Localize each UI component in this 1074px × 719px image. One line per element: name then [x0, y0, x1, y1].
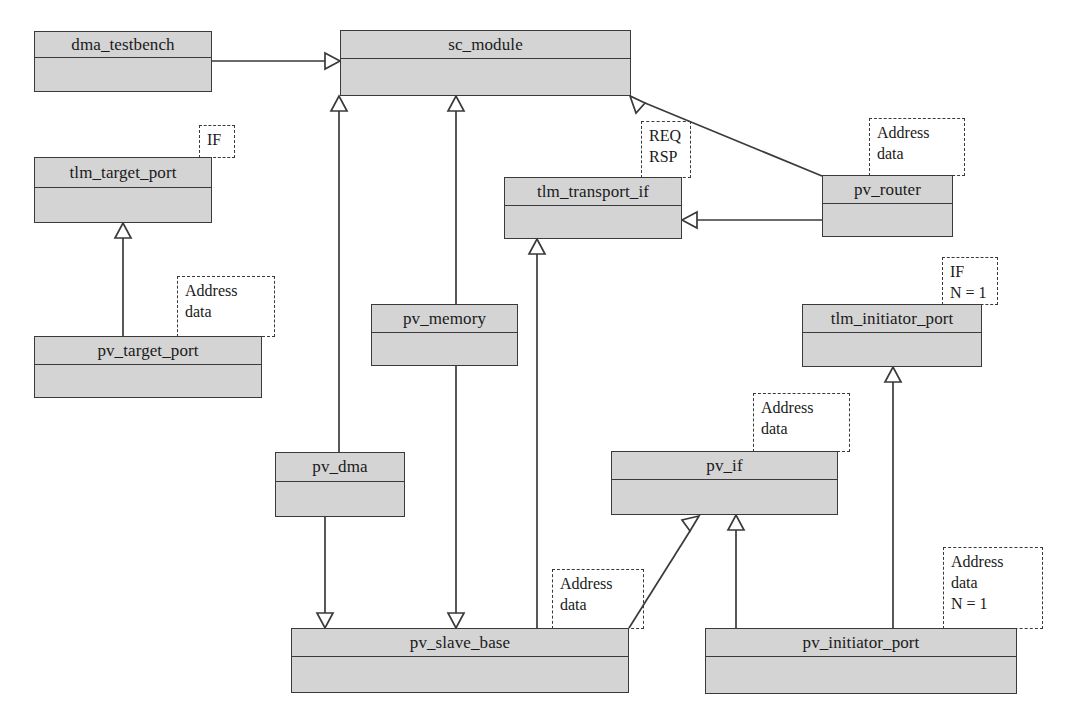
note-req-rsp-tlm-transport-if[interactable]: REQ RSP [641, 121, 691, 178]
edge-dma-testbench-to-sc-module [212, 53, 340, 69]
class-body-pv-if [612, 480, 837, 514]
edge-pv-dma-to-sc-module [331, 96, 347, 452]
edge-pv-initiator-port-to-tlm-initiator-port [885, 367, 901, 628]
class-name-tlm-target-port: tlm_target_port [35, 158, 211, 188]
note-address-data-n1-pv-initiator-port[interactable]: Address data N = 1 [943, 547, 1043, 629]
class-name-pv-target-port: pv_target_port [35, 337, 261, 365]
class-name-tlm-initiator-port: tlm_initiator_port [803, 305, 981, 333]
edge-pv-initiator-port-to-pv-if [728, 515, 744, 628]
class-box-sc-module[interactable]: sc_module [340, 30, 631, 96]
class-box-tlm-initiator-port[interactable]: tlm_initiator_port [802, 304, 982, 367]
edge-pv-router-to-tlm-transport-if [682, 212, 822, 228]
class-body-tlm-target-port [35, 188, 211, 222]
class-body-dma-testbench [35, 58, 211, 91]
class-body-pv-dma [276, 482, 404, 516]
class-name-dma-testbench: dma_testbench [35, 32, 211, 58]
class-body-pv-target-port [35, 365, 261, 397]
class-box-pv-slave-base[interactable]: pv_slave_base [291, 628, 629, 693]
class-body-pv-router [823, 204, 952, 236]
class-box-pv-target-port[interactable]: pv_target_port [34, 336, 262, 398]
class-box-pv-router[interactable]: pv_router [822, 175, 953, 237]
edge-pv-slave-base-to-tlm-transport-if [529, 239, 545, 628]
class-name-tlm-transport-if: tlm_transport_if [505, 178, 681, 206]
class-body-sc-module [341, 59, 630, 95]
class-name-pv-memory: pv_memory [372, 305, 517, 333]
class-name-pv-router: pv_router [823, 176, 952, 204]
class-name-pv-initiator-port: pv_initiator_port [706, 629, 1016, 657]
class-box-dma-testbench[interactable]: dma_testbench [34, 31, 212, 92]
class-body-pv-slave-base [292, 657, 628, 692]
note-address-data-pv-router[interactable]: Address data [869, 118, 965, 176]
edge-pv-target-port-to-tlm-target-port [115, 223, 131, 336]
note-address-data-pv-target-port[interactable]: Address data [177, 276, 275, 337]
note-address-data-pv-if[interactable]: Address data [753, 393, 850, 452]
class-box-pv-dma[interactable]: pv_dma [275, 452, 405, 517]
class-box-tlm-target-port[interactable]: tlm_target_port [34, 157, 212, 223]
edge-pv-memory-to-sc-module [448, 96, 464, 304]
class-name-pv-dma: pv_dma [276, 453, 404, 482]
class-box-tlm-transport-if[interactable]: tlm_transport_if [504, 177, 682, 239]
note-if-n1-tlm-initiator-port[interactable]: IF N = 1 [942, 257, 998, 305]
edge-pv-memory-to-pv-slave-base [448, 366, 464, 628]
class-box-pv-initiator-port[interactable]: pv_initiator_port [705, 628, 1017, 694]
note-address-data-pv-slave-base[interactable]: Address data [552, 569, 644, 629]
class-box-pv-if[interactable]: pv_if [611, 451, 838, 515]
class-name-sc-module: sc_module [341, 31, 630, 59]
note-if-tlm-target-port[interactable]: IF [199, 125, 235, 158]
class-name-pv-if: pv_if [612, 452, 837, 480]
class-body-pv-memory [372, 333, 517, 365]
edge-pv-dma-to-pv-slave-base [317, 517, 333, 628]
class-body-tlm-transport-if [505, 206, 681, 238]
class-body-tlm-initiator-port [803, 333, 981, 366]
class-body-pv-initiator-port [706, 657, 1016, 693]
uml-class-diagram: dma_testbench sc_module tlm_target_port … [0, 0, 1074, 719]
class-box-pv-memory[interactable]: pv_memory [371, 304, 518, 366]
class-name-pv-slave-base: pv_slave_base [292, 629, 628, 657]
